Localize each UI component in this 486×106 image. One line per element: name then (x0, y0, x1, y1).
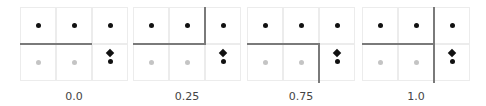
black-dot-marker (378, 23, 383, 28)
gray-dot-marker (72, 60, 77, 65)
gray-dot-marker (299, 60, 304, 65)
black-dot-marker (335, 59, 340, 64)
partition-horizontal-line (20, 43, 92, 45)
black-dot-marker (263, 23, 268, 28)
grid (20, 7, 128, 81)
grid (133, 7, 241, 81)
partition-horizontal-line (362, 43, 435, 45)
panel-label: 0.0 (20, 90, 128, 103)
black-dot-marker (72, 23, 77, 28)
gray-dot-marker (263, 60, 268, 65)
black-dot-marker (185, 23, 190, 28)
partition-vertical-line (433, 7, 435, 83)
black-dot-marker (299, 23, 304, 28)
panel-label: 0.75 (247, 90, 355, 103)
black-dot-marker (221, 23, 226, 28)
panel-1: 0.25 (133, 0, 245, 106)
gray-dot-marker (36, 60, 41, 65)
black-dot-marker (335, 23, 340, 28)
panel-2: 0.75 (247, 0, 359, 106)
partition-horizontal-line (247, 43, 320, 45)
black-dot-marker (414, 23, 419, 28)
black-dot-marker (149, 23, 154, 28)
gray-dot-marker (414, 60, 419, 65)
gray-dot-marker (185, 60, 190, 65)
grid (362, 7, 470, 81)
gray-dot-marker (149, 60, 154, 65)
black-dot-marker (108, 23, 113, 28)
gray-dot-marker (378, 60, 383, 65)
panel-3: 1.0 (362, 0, 474, 106)
panel-label: 1.0 (362, 90, 470, 103)
partition-vertical-line (318, 43, 320, 83)
panel-0: 0.0 (20, 0, 132, 106)
black-dot-marker (221, 59, 226, 64)
partition-horizontal-line (133, 43, 206, 45)
black-dot-marker (450, 59, 455, 64)
panel-label: 0.25 (133, 90, 241, 103)
black-dot-marker (450, 23, 455, 28)
black-dot-marker (36, 23, 41, 28)
black-dot-marker (108, 59, 113, 64)
grid (247, 7, 355, 81)
partition-vertical-line (204, 7, 206, 45)
